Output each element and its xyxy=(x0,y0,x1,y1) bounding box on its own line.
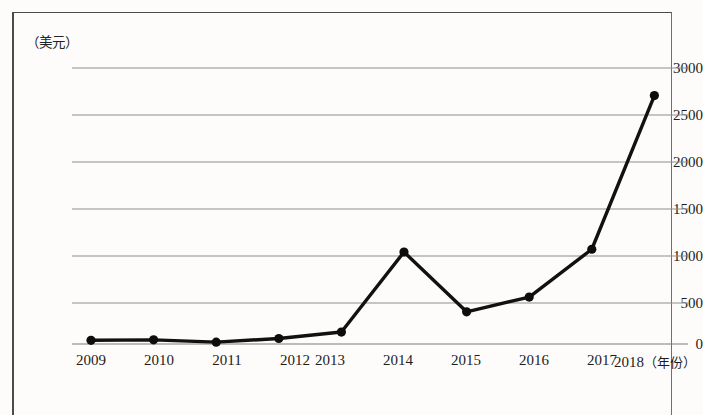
x-tick-label-2014: 2014 xyxy=(383,352,413,369)
data-point-2017 xyxy=(587,245,596,254)
line-chart: （美元） 3000 2500 2000 1500 1000 500 0 2009… xyxy=(0,0,703,415)
data-point-2011 xyxy=(212,338,221,347)
x-tick-label-2017: 2017 xyxy=(587,352,617,369)
x-tick-label-2010: 2010 xyxy=(144,352,174,369)
x-tick-label-2018: 2018（年份） xyxy=(614,352,696,371)
x-tick-label-2009: 2009 xyxy=(76,352,106,369)
gridlines xyxy=(72,68,688,344)
x-tick-label-2011: 2011 xyxy=(212,352,241,369)
x-axis-caption: （年份） xyxy=(644,355,696,370)
data-point-2018 xyxy=(650,91,659,100)
x-tick-label-2013: 2013 xyxy=(315,352,345,369)
x-tick-label-2018-year: 2018 xyxy=(614,354,644,370)
series-markers-group xyxy=(86,91,659,347)
x-tick-label-2012: 2012 xyxy=(280,352,310,369)
x-tick-label-2015: 2015 xyxy=(451,352,481,369)
data-point-2010 xyxy=(149,335,158,344)
data-point-2015 xyxy=(462,307,471,316)
x-tick-label-2016: 2016 xyxy=(519,352,549,369)
data-point-2014 xyxy=(399,247,408,256)
data-point-2009 xyxy=(86,336,95,345)
data-point-2012 xyxy=(274,334,283,343)
data-point-2013 xyxy=(337,327,346,336)
series-line-path xyxy=(91,96,654,343)
data-point-2016 xyxy=(525,292,534,301)
